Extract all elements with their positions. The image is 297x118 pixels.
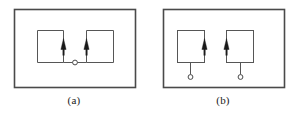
panel-a-frame bbox=[15, 10, 136, 88]
panel-a-right-arrow-icon bbox=[84, 39, 89, 56]
panel-b-right-loop-outline bbox=[227, 31, 254, 63]
panel-b-caption: (b) bbox=[149, 93, 297, 107]
panel-a-left-loop-outline bbox=[38, 31, 64, 63]
panel-a: (a) bbox=[0, 0, 148, 118]
panel-b-left-terminal-node-icon bbox=[188, 75, 193, 80]
panel-b-right-terminal-node-icon bbox=[238, 75, 243, 80]
panel-b-left-loop-outline bbox=[178, 31, 205, 63]
panel-a-left-arrow-icon bbox=[61, 39, 66, 56]
panel-b-diagram bbox=[149, 0, 297, 92]
panel-a-center-node-icon bbox=[73, 60, 78, 65]
panel-a-right-loop-outline bbox=[87, 31, 114, 63]
panel-a-diagram bbox=[0, 0, 148, 92]
panel-b: (b) bbox=[149, 0, 297, 118]
figure-root: (a) (b bbox=[0, 0, 297, 118]
panel-b-right-arrow-icon bbox=[224, 39, 229, 56]
panel-b-left-arrow-icon bbox=[202, 39, 207, 56]
panel-a-caption: (a) bbox=[0, 93, 148, 107]
